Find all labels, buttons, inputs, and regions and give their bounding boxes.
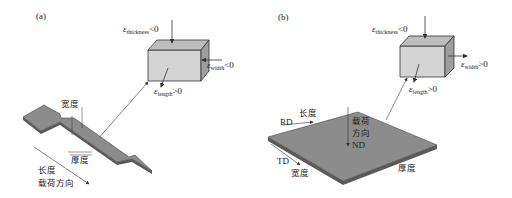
specimen-thickness-label: 厚度 (71, 155, 89, 165)
connector-b (386, 78, 407, 120)
strain-width-label-a: εwidth<0 (207, 60, 234, 73)
panel-a-label: (a) (36, 11, 46, 21)
strain-thickness-label-a: εthickness<0 (123, 24, 158, 37)
sheet-thickness-label: 厚度 (398, 163, 416, 173)
strain-width-label-b: εwidth>0 (461, 59, 488, 72)
strain-cube-a (148, 40, 209, 81)
strain-cube-b (400, 36, 454, 77)
strain-thickness-label-b: εthickness<0 (372, 24, 407, 37)
sheet-length-label: 长度 (299, 108, 317, 118)
strain-length-label-b: εlength>0 (409, 84, 437, 97)
connector-a (97, 82, 148, 140)
td-label: TD (277, 156, 289, 166)
sheet-load-label-1: 载荷 (352, 116, 370, 126)
strain-length-label-a: εlength>0 (154, 86, 182, 99)
specimen-width-label: 宽度 (61, 99, 79, 109)
specimen-load-direction-label: 载荷方向 (38, 178, 74, 188)
sheet-width-label: 宽度 (291, 168, 309, 178)
rd-label: RD (280, 117, 293, 127)
panel-b-label: (b) (278, 12, 289, 22)
specimen-length-label: 长度 (38, 165, 56, 175)
sheet-load-label-2: 方向 (352, 128, 370, 138)
nd-label: ND (352, 140, 365, 150)
